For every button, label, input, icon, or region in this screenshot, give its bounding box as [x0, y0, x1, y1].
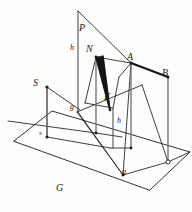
vertex-dots [45, 56, 169, 177]
label-trace-h-lower: h [117, 117, 121, 125]
dot-s [45, 85, 48, 88]
dot-a-base [130, 147, 133, 150]
label-point-n: N [86, 44, 93, 54]
label-trace-s: s [39, 130, 42, 137]
label-plane-g: G [56, 183, 63, 193]
right-ground-triangle [123, 152, 190, 175]
label-trace-g-lower: g [122, 168, 126, 176]
label-plane-p: P [79, 23, 85, 33]
vertical-plane-s [8, 87, 110, 148]
diagram-canvas [0, 0, 192, 212]
label-trace-g-upper: g [70, 103, 74, 111]
label-point-b: B [162, 68, 168, 78]
open-circle-marker [166, 160, 170, 164]
label-trace-h-upper: h [70, 44, 74, 52]
dot-s-low [46, 136, 49, 139]
dot-n [95, 56, 98, 59]
ground-plane-outline [14, 111, 190, 190]
inner-body-outline [77, 85, 168, 175]
geometry-figure: P h N A B S F g h s g G [0, 0, 192, 212]
label-point-a: A [127, 52, 133, 62]
label-point-f: F [104, 92, 110, 102]
dot-n-base [95, 132, 98, 135]
dot-f [109, 109, 112, 112]
label-plane-s: S [33, 78, 38, 88]
